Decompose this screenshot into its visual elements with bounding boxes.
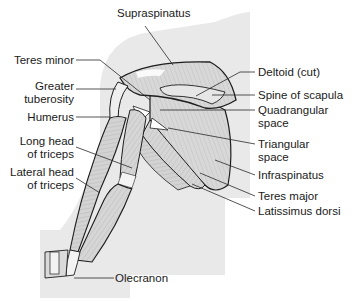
label-deltoid-cut: Deltoid (cut) (258, 66, 320, 79)
anatomy-diagram: Supraspinatus Teres minor Greatertuberos… (0, 0, 355, 301)
label-teres-major: Teres major (258, 190, 318, 203)
label-olecranon: Olecranon (115, 272, 168, 285)
label-humerus: Humerus (4, 111, 74, 124)
label-latissimus-dorsi: Latissimus dorsi (258, 205, 340, 218)
label-teres-minor: Teres minor (4, 54, 74, 67)
label-supraspinatus: Supraspinatus (117, 7, 191, 20)
forearm-band (50, 252, 59, 274)
label-lateral-head-triceps: Lateral headof triceps (4, 166, 74, 191)
label-spine-of-scapula: Spine of scapula (258, 89, 343, 102)
label-greater-tuberosity: Greatertuberosity (4, 80, 74, 105)
label-triangular-space: Triangularspace (258, 138, 309, 163)
label-infraspinatus: Infraspinatus (258, 169, 324, 182)
label-quadrangular-space: Quadrangularspace (258, 104, 328, 129)
label-long-head-triceps: Long headof triceps (4, 135, 74, 160)
